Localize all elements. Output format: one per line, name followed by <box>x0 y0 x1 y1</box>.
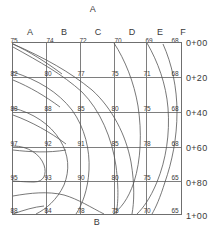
cell-value: 68 <box>167 70 183 77</box>
cell-value: 65 <box>167 207 183 214</box>
contour-diagram: A A B C D E F 75 74 72 70 69 68 0+00 0+2… <box>0 0 219 231</box>
cell-value: 92 <box>40 140 56 147</box>
cell-value: 78 <box>73 207 89 214</box>
cell-value: 70 <box>139 207 155 214</box>
cell-value: 90 <box>73 174 89 181</box>
contour-line <box>137 43 169 214</box>
cell-value: 80 <box>107 174 123 181</box>
cell-value: 93 <box>40 174 56 181</box>
cell-value: 77 <box>73 70 89 77</box>
contour-plot <box>0 0 219 231</box>
cell-value: 75 <box>107 207 123 214</box>
cell-value: 75 <box>107 70 123 77</box>
contour-line <box>13 80 60 107</box>
cell-value: 80 <box>107 105 123 112</box>
cell-value: 80 <box>40 70 56 77</box>
cell-value: 65 <box>167 174 183 181</box>
cell-value: 68 <box>167 140 183 147</box>
cell-value: 88 <box>6 105 22 112</box>
cell-value: 97 <box>6 140 22 147</box>
cell-value: 95 <box>6 174 22 181</box>
cell-value: 71 <box>139 70 155 77</box>
grid-border <box>13 43 182 215</box>
contour-line <box>13 47 118 214</box>
cell-value: 84 <box>40 207 56 214</box>
cell-value: 85 <box>107 140 123 147</box>
cell-value: 68 <box>167 105 183 112</box>
contour-line <box>13 108 68 214</box>
cell-value: 85 <box>73 105 89 112</box>
cell-value: 82 <box>6 70 22 77</box>
cell-value: 88 <box>6 207 22 214</box>
cell-value: 75 <box>139 105 155 112</box>
contour-line <box>13 193 104 214</box>
bottom-axis-label: B <box>12 217 182 227</box>
cell-value: 91 <box>73 140 89 147</box>
contour-line <box>113 43 140 214</box>
contour-line <box>13 150 66 152</box>
cell-value: 88 <box>40 105 56 112</box>
cell-value: 78 <box>139 140 155 147</box>
cell-value: 75 <box>139 174 155 181</box>
